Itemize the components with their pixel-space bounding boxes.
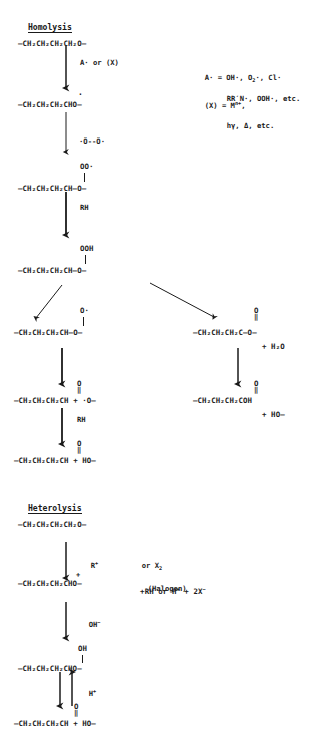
legend-catalyst-line2: hγ, Δ, etc. [227, 121, 275, 130]
reagent-cation: R+ [82, 550, 98, 571]
double-bond-acid: ‖ [254, 387, 258, 394]
reagent-cation-charge: + [95, 560, 98, 566]
legend-catalyst-tail: , [241, 101, 245, 110]
structure-aldehyde-plus-alkoxy: —CH₂CH₂CH₂CH + ·O— [14, 397, 96, 404]
double-bond-3: ‖ [74, 710, 78, 717]
reaction-scheme-canvas [0, 0, 332, 751]
structure-alkoxy-radical: —CH₂CH₂CH₂CH—O— [14, 329, 82, 336]
reagent-rh-1: RH [80, 203, 89, 213]
byproduct-hydroxyl: + HO— [262, 411, 285, 418]
structure-hydroperoxide: —CH₂CH₂CH₂CH—O— [18, 267, 86, 274]
reagent-initiation: A· or (X) [80, 58, 119, 68]
bond-hydroxyl [82, 655, 83, 663]
reagent-halogen-line1: or X [142, 561, 159, 570]
reagent-rh-2: RH [77, 415, 86, 425]
legend-radical-line1: A· = OH·, O [205, 73, 253, 82]
double-bond-1: ‖ [77, 387, 81, 394]
reagent-proton-charge: + [93, 688, 96, 694]
byproduct-water: + H₂O [262, 343, 285, 350]
reagent-hydroxide-symbol: OH [89, 620, 98, 629]
structure-carboxylic-acid: —CH₂CH₂CH₂COH [193, 397, 252, 404]
structure-aldehyde-final: —CH₂CH₂CH₂CH + HO— [14, 720, 96, 727]
reagent-hydroxide: OH− [80, 609, 100, 630]
byproducts-prefix: +RH or H [140, 588, 176, 597]
structure-carbocation: —CH₂CH₂CH₂CHO— [18, 580, 82, 587]
reagent-hydroxide-charge: − [97, 619, 100, 625]
structure-ester: —CH₂CH₂CH₂C—O— [193, 329, 257, 336]
radical-dot-carbon-radical: · [78, 91, 83, 99]
branch-label-peroxy: OO· [80, 163, 94, 170]
section-heading-homolysis: Homolysis [28, 23, 72, 33]
legend-radical-line1-tail: ·, Cl· [255, 73, 281, 82]
bond-alkoxy [83, 317, 84, 326]
charge-carbocation: + [76, 572, 80, 579]
structure-carbon-radical: —CH₂CH₂CH₂CHO— [18, 101, 82, 108]
reagent-proton: H+ [80, 678, 96, 699]
bond-hydroperoxide [85, 255, 86, 264]
byproducts-sup2: − [203, 586, 206, 592]
legend-catalyst-species: (X) = Mn+, hγ, Δ, etc. [196, 90, 274, 130]
structure-peroxy-radical: —CH₂CH₂CH₂CH—O— [18, 185, 86, 192]
reagent-oxygen-diradical: ·Ö--Ö· [79, 137, 105, 147]
arrow-branch-left [36, 285, 62, 318]
bond-peroxy [84, 173, 85, 182]
branch-label-alkoxy: O· [80, 307, 89, 314]
arrow-branch-right [150, 283, 214, 317]
double-bond-ester: ‖ [254, 314, 258, 321]
structure-hemiacetal: —CH₂CH₂CH₂CHO— [18, 665, 82, 672]
structure-polyether-chain-2: —CH₂CH₂CH₂CH₂O— [18, 521, 86, 528]
structure-aldehyde-plus-ho: —CH₂CH₂CH₂CH + HO— [14, 457, 96, 464]
byproducts-heterolysis: +RH or H+ + 2X− [131, 580, 206, 596]
branch-label-hydroxyl: OH [78, 645, 87, 652]
branch-label-hydroperoxide: OOH [80, 245, 94, 252]
reagent-halogen-sub: 2 [159, 565, 162, 571]
legend-catalyst-prefix: (X) = M [205, 101, 235, 110]
double-bond-2: ‖ [77, 447, 81, 454]
structure-polyether-chain: —CH₂CH₂CH₂CH₂O— [18, 40, 86, 47]
section-heading-heterolysis: Heterolysis [28, 504, 82, 514]
byproducts-mid: + 2X [180, 588, 203, 597]
